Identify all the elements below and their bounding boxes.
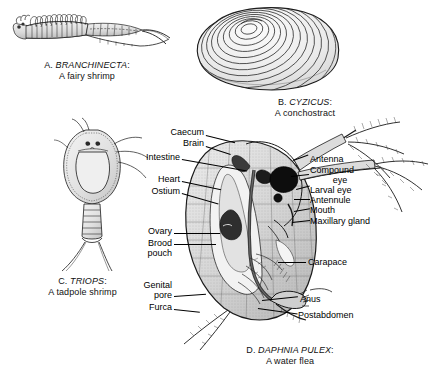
label-furca: Furca (128, 302, 172, 312)
label-carapace: Carapace (308, 257, 347, 267)
label-anus: Anus (300, 294, 321, 304)
caption-branchinecta-line2: A fairy shrimp (59, 71, 115, 81)
label-antenna: Antenna (310, 154, 344, 164)
label-genital-pore: Genital pore (118, 280, 172, 300)
label-ovary: Ovary (124, 226, 172, 236)
label-intestine: Intestine (128, 152, 180, 162)
label-compound-eye: Compound eye (310, 165, 370, 185)
label-postabdomen: Postabdomen (298, 310, 354, 320)
caption-daphnia-line2: A water flea (266, 356, 314, 366)
caption-branchinecta-line1: A. BRANCHINECTA: (44, 60, 129, 70)
caption-triops-line2: A tadpole shrimp (48, 287, 117, 297)
label-larval-eye: Larval eye (310, 185, 352, 195)
illustration-plate: A. BRANCHINECTA: A fairy shrimp (0, 0, 439, 381)
label-antennule: Antennule (310, 195, 351, 205)
caption-daphnia: D. DAPHNIA PULEX: A water flea (215, 345, 365, 367)
label-ostium: Ostium (136, 186, 180, 196)
caption-triops-line1: C. TRIOPS: (58, 276, 107, 286)
label-heart: Heart (140, 174, 180, 184)
leader-carapace (278, 262, 306, 263)
label-brood-pouch: Brood pouch (118, 238, 172, 258)
caption-daphnia-line1: D. DAPHNIA PULEX: (246, 345, 333, 355)
caption-cyzicus-line1: B. CYZICUS: (278, 97, 332, 107)
label-maxillary-gland: Maxillary gland (310, 216, 370, 226)
label-caecum: Caecum (150, 127, 204, 137)
figure-cyzicus (186, 2, 351, 97)
label-mouth: Mouth (310, 205, 335, 215)
leader-antennule (294, 199, 310, 200)
leader-ovary (174, 233, 220, 234)
label-brain: Brain (154, 138, 204, 148)
caption-branchinecta: A. BRANCHINECTA: A fairy shrimp (22, 60, 152, 82)
figure-branchinecta (10, 2, 175, 60)
leader-brood-pouch (174, 244, 216, 245)
